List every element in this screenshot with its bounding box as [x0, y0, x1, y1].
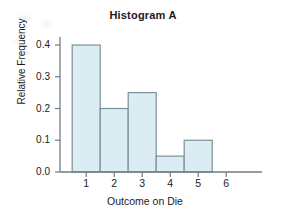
histogram-figure: Histogram A Relative Frequency Outcome o… — [0, 0, 286, 216]
y-tick-label: 0.1 — [24, 134, 50, 145]
y-tick-label: 0.4 — [24, 39, 50, 50]
x-tick-label: 3 — [135, 177, 149, 189]
y-tick-label: 0.2 — [24, 103, 50, 114]
histogram-bar — [184, 140, 212, 172]
x-tick-label: 6 — [219, 177, 233, 189]
x-tick-label: 1 — [79, 177, 93, 189]
x-tick-label: 5 — [191, 177, 205, 189]
y-tick-label: 0.3 — [24, 71, 50, 82]
histogram-bar — [156, 156, 184, 172]
x-tick-label: 4 — [163, 177, 177, 189]
y-tick-label: 0.0 — [24, 166, 50, 177]
bars-group — [72, 45, 212, 172]
x-tick-label: 2 — [107, 177, 121, 189]
histogram-bar — [128, 93, 156, 172]
histogram-bar — [100, 109, 128, 173]
histogram-bar — [72, 45, 100, 172]
